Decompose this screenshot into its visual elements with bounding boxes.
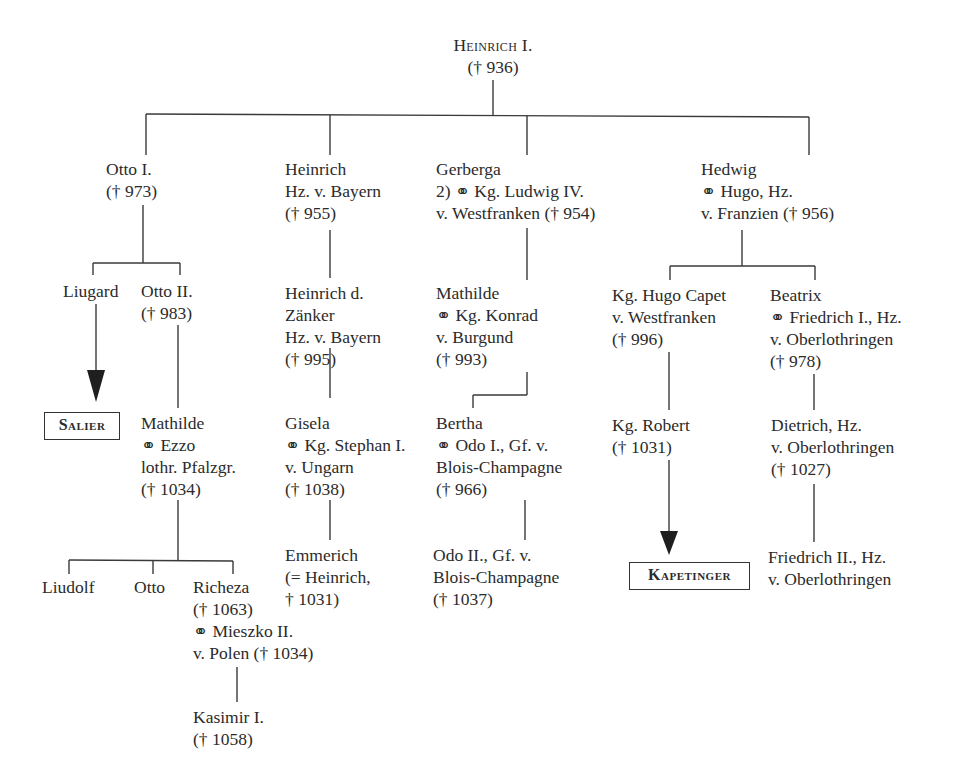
node-line: lothr. Pfalzgr. [141,456,236,478]
node-line: († 955) [285,202,381,224]
node-line: Hz. v. Bayern [285,326,381,348]
node-otto: Otto [134,576,165,598]
node-line: ⚭ Hugo, Hz. [701,180,834,202]
node-line: Zänker [285,304,381,326]
node-line: Dietrich, Hz. [771,414,894,436]
node-line: († 1027) [771,458,894,480]
node-line: († 995) [285,348,381,370]
node-line: ⚭ Kg. Konrad [436,304,538,326]
node-line: v. Polen († 1034) [193,642,313,664]
node-emmerich: Emmerich (= Heinrich, † 1031) [285,544,371,610]
dynasty-box-salier: Salier [44,412,120,440]
node-kasimir-i: Kasimir I. († 1058) [193,706,264,750]
node-line: Gisela [285,412,405,434]
node-hugo-capet: Kg. Hugo Capet v. Westfranken († 996) [612,284,726,350]
node-beatrix: Beatrix ⚭ Friedrich I., Hz. v. Oberlothr… [770,284,902,372]
node-line: Blois-Champagne [436,456,562,478]
node-line: († 993) [436,348,538,370]
dynasty-box-kapetinger: Kapetinger [629,562,750,590]
node-liudolf: Liudolf [42,576,95,598]
node-line: ⚭ Ezzo [141,434,236,456]
node-line: Odo II., Gf. v. [433,544,559,566]
node-line: Gerberga [436,158,595,180]
node-odo-ii: Odo II., Gf. v. Blois-Champagne († 1037) [433,544,559,610]
node-line: († 1037) [433,588,559,610]
node-mathilde-ezzo: Mathilde ⚭ Ezzo lothr. Pfalzgr. († 1034) [141,412,236,500]
node-line: Emmerich [285,544,371,566]
node-line: v. Oberlothringen [770,328,902,350]
node-line: Blois-Champagne [433,566,559,588]
node-line: Liudolf [42,576,95,598]
node-mathilde-konrad: Mathilde ⚭ Kg. Konrad v. Burgund († 993) [436,282,538,370]
node-gisela: Gisela ⚭ Kg. Stephan I. v. Ungarn († 103… [285,412,405,500]
node-heinrich-hz-bayern: Heinrich Hz. v. Bayern († 955) [285,158,381,224]
node-liugard: Liugard [63,280,118,302]
node-otto-i: Otto I. († 973) [106,158,157,202]
node-bertha: Bertha ⚭ Odo I., Gf. v. Blois-Champagne … [436,412,562,500]
node-line: († 1038) [285,478,405,500]
node-line: ⚭ Kg. Stephan I. [285,434,405,456]
node-line: († 996) [612,328,726,350]
node-heinrich-zaenker: Heinrich d. Zänker Hz. v. Bayern († 995) [285,282,381,370]
node-line: v. Oberlothringen [771,436,894,458]
node-line: Otto II. [141,280,193,302]
node-heinrich-i: Heinrich I. († 936) [430,34,556,78]
box-label: Kapetinger [648,566,731,583]
node-line: († 983) [141,302,193,324]
node-line: († 1034) [141,478,236,500]
node-line: Otto [134,576,165,598]
node-line: v. Ungarn [285,456,405,478]
node-line: ⚭ Friedrich I., Hz. [770,306,902,328]
node-dietrich: Dietrich, Hz. v. Oberlothringen († 1027) [771,414,894,480]
node-kg-robert: Kg. Robert († 1031) [612,414,690,458]
node-line: v. Westfranken [612,306,726,328]
node-death: († 936) [430,56,556,78]
node-line: v. Oberlothringen [768,568,891,590]
node-line: v. Franzien († 956) [701,202,834,224]
node-line: († 973) [106,180,157,202]
node-line: ⚭ Odo I., Gf. v. [436,434,562,456]
node-name: Heinrich I. [430,34,556,56]
node-line: v. Westfranken († 954) [436,202,595,224]
node-line: Mathilde [141,412,236,434]
node-line: Heinrich d. [285,282,381,304]
node-line: Friedrich II., Hz. [768,546,891,568]
node-line: Kasimir I. [193,706,264,728]
node-line: Bertha [436,412,562,434]
node-gerberga: Gerberga 2) ⚭ Kg. Ludwig IV. v. Westfran… [436,158,595,224]
box-label: Salier [59,416,106,433]
node-line: († 1058) [193,728,264,750]
node-line: Otto I. [106,158,157,180]
node-hedwig: Hedwig ⚭ Hugo, Hz. v. Franzien († 956) [701,158,834,224]
node-line: († 966) [436,478,562,500]
node-line: († 1031) [612,436,690,458]
node-line: † 1031) [285,588,371,610]
node-line: Mathilde [436,282,538,304]
node-line: Heinrich [285,158,381,180]
node-friedrich-ii: Friedrich II., Hz. v. Oberlothringen [768,546,891,590]
node-line: Liugard [63,280,118,302]
node-line: Kg. Robert [612,414,690,436]
node-line: ⚭ Mieszko II. [193,620,313,642]
tree-connectors [0,0,963,784]
node-line: (= Heinrich, [285,566,371,588]
node-line: Beatrix [770,284,902,306]
node-otto-ii: Otto II. († 983) [141,280,193,324]
node-line: Hedwig [701,158,834,180]
node-line: 2) ⚭ Kg. Ludwig IV. [436,180,595,202]
node-line: († 978) [770,350,902,372]
node-line: Hz. v. Bayern [285,180,381,202]
node-line: Kg. Hugo Capet [612,284,726,306]
node-line: v. Burgund [436,326,538,348]
